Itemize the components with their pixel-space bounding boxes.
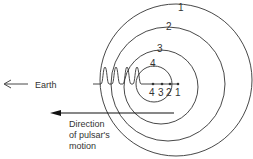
motion-label-line3: motion [69,141,96,151]
motion-label-line1: Direction [69,119,105,129]
motion-arrow-icon [50,110,174,116]
position-label-2: 2 [166,87,172,98]
position-label-1: 1 [175,87,181,98]
wavefront-label-4: 4 [150,58,156,69]
position-label-4: 4 [149,87,155,98]
position-dot-1 [177,83,180,86]
pulsar-doppler-diagram: 1 2 3 4 4 3 2 1 Earth Direction of pulsa… [0,0,253,159]
wavefront-label-1: 1 [178,2,184,13]
earth-arrow-icon [4,80,28,88]
wavefront-label-3: 3 [157,43,163,54]
position-dot-2 [169,83,172,86]
wavefront-circle-1 [100,4,252,156]
position-label-3: 3 [158,87,164,98]
wavefront-label-2: 2 [166,21,172,32]
position-dot-3 [161,83,164,86]
motion-label-line2: of pulsar's [69,130,110,140]
position-dot-4 [152,83,155,86]
earth-label: Earth [35,80,57,90]
